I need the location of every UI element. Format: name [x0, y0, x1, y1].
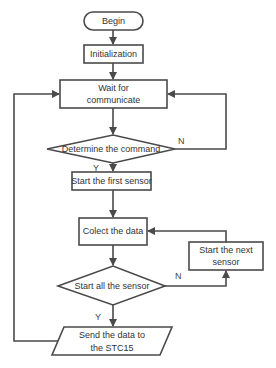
label-determine: Determine the command [62, 144, 161, 154]
flowchart-svg: Begin Initialization Wait for communicat… [0, 0, 276, 368]
label-send-line1: Send the data to [79, 330, 145, 340]
label-initialization: Initialization [90, 49, 137, 59]
label-next-line1: Start the next [199, 245, 253, 255]
label-all-no: N [175, 271, 182, 281]
edge-next-collect [148, 231, 226, 242]
edge-send-wait [14, 94, 59, 341]
label-send-line2: the STC15 [90, 343, 133, 353]
flowchart-canvas: Begin Initialization Wait for communicat… [0, 0, 276, 368]
label-first-sensor: Start the first sensor [71, 176, 152, 186]
label-all-sensor: Start all the sensor [74, 281, 149, 291]
label-collect: Colect the data [83, 226, 144, 236]
label-wait-line2: communicate [87, 95, 141, 105]
label-determine-no: N [178, 136, 185, 146]
label-all-yes: Y [95, 312, 101, 322]
label-wait-line1: Wait for [98, 83, 129, 93]
label-begin: Begin [102, 16, 125, 26]
label-determine-yes: Y [93, 163, 99, 173]
edge-determine-no [168, 94, 226, 149]
label-next-line2: sensor [212, 257, 239, 267]
